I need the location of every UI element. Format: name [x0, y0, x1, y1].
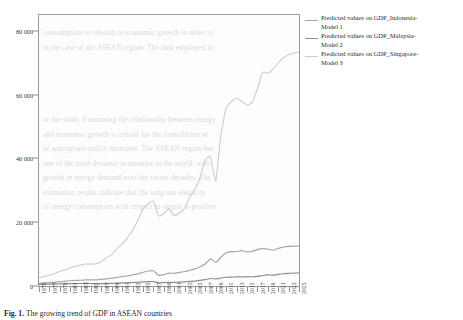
x-axis-tick-mark — [60, 287, 61, 292]
x-axis-tick-mark — [195, 287, 196, 292]
x-axis-tick-mark — [153, 287, 154, 292]
x-axis-tick-mark — [268, 287, 269, 292]
x-axis-tick-label: 1985 — [93, 282, 99, 294]
chart-series-svg — [39, 15, 299, 286]
x-axis-tick-label: 2007 — [208, 282, 214, 294]
x-axis-tick-label: 1983 — [83, 282, 89, 294]
x-axis-tick-mark — [164, 287, 165, 292]
x-axis-tick-label: 2023 — [291, 282, 297, 294]
legend-color-swatch — [305, 38, 318, 39]
x-axis-tick-label: 2009 — [218, 282, 224, 294]
y-axis-tick-label: 80 000 — [16, 27, 33, 34]
x-axis-tick-mark — [216, 287, 217, 292]
x-axis-tick-mark — [133, 287, 134, 292]
x-axis-tick-label: 2025 — [301, 282, 307, 294]
legend-color-swatch — [305, 20, 318, 21]
x-axis-tick-label: 2013 — [239, 282, 245, 294]
x-axis-tick-mark — [112, 287, 113, 292]
x-axis-tick-label: 1997 — [156, 282, 162, 294]
y-axis-tick-mark — [33, 286, 38, 287]
y-axis-tick-mark — [33, 158, 38, 159]
chart-legend: Predicted values on GDP_Indonesia-Model … — [305, 14, 461, 69]
x-axis-tick-label: 2021 — [280, 282, 286, 294]
y-axis-tick-label: 60 000 — [16, 91, 33, 98]
y-axis-tick-mark — [33, 222, 38, 223]
x-axis-tick-label: 1989 — [114, 282, 120, 294]
x-axis-tick-mark — [205, 287, 206, 292]
legend-entry[interactable]: Predicted values on GDP_Malaysia-Model 2 — [305, 32, 461, 49]
x-axis-tick-mark — [185, 287, 186, 292]
legend-label-line2: Model 2 — [321, 41, 461, 50]
x-axis-tick-label: 1975 — [41, 282, 47, 294]
x-axis-tick-label: 1993 — [135, 282, 141, 294]
x-axis-tick-mark — [81, 287, 82, 292]
x-axis-tick-label: 1995 — [145, 282, 151, 294]
legend-entry[interactable]: Predicted values on GDP_Indonesia-Model … — [305, 14, 461, 31]
y-axis-tick-label: 40 000 — [16, 155, 33, 162]
x-axis-tick-mark — [39, 287, 40, 292]
x-axis-tick-mark — [101, 287, 102, 292]
legend-label-line1: Predicted values on GDP_Malaysia- — [321, 32, 416, 39]
x-axis-tick-mark — [257, 287, 258, 292]
x-axis-tick-label: 2011 — [228, 283, 234, 294]
legend-color-swatch — [305, 56, 318, 57]
x-axis-tick-mark — [247, 287, 248, 292]
legend-label-line2: Model 1 — [321, 23, 461, 32]
figure-caption: Fig. 1. The growing trend of GDP in ASEA… — [4, 309, 304, 320]
x-axis-tick-label: 1977 — [52, 282, 58, 294]
x-axis-tick-mark — [237, 287, 238, 292]
legend-entry[interactable]: Predicted values on GDP_Singapore-Model … — [305, 50, 461, 67]
y-axis-tick-mark — [33, 30, 38, 31]
x-axis-tick-label: 2001 — [176, 282, 182, 294]
series-line — [39, 52, 299, 278]
x-axis-tick-label: 1987 — [104, 282, 110, 294]
legend-label-line1: Predicted values on GDP_Singapore- — [321, 50, 418, 57]
x-axis-tick-mark — [299, 287, 300, 292]
x-axis-tick-label: 2019 — [270, 282, 276, 294]
x-axis-tick-mark — [143, 287, 144, 292]
x-axis-tick-mark — [49, 287, 50, 292]
legend-label: Predicted values on GDP_Indonesia-Model … — [321, 14, 461, 31]
y-axis-tick-mark — [33, 94, 38, 95]
chart-plot-area: consumption in relation to economic grow… — [38, 14, 300, 287]
x-axis-tick-label: 1979 — [62, 282, 68, 294]
legend-label-line2: Model 3 — [321, 59, 461, 68]
x-axis-tick-label: 1991 — [124, 282, 130, 294]
x-axis-tick-label: 2015 — [249, 282, 255, 294]
legend-label: Predicted values on GDP_Malaysia-Model 2 — [321, 32, 461, 49]
series-line — [39, 246, 299, 283]
caption-label: Fig. 1. — [4, 309, 24, 318]
y-axis-tick-label: 20 000 — [16, 219, 33, 226]
legend-label-line1: Predicted values on GDP_Indonesia- — [321, 14, 417, 21]
x-axis-tick-label: 2017 — [260, 282, 266, 294]
x-axis-tick-label: 2005 — [197, 282, 203, 294]
caption-text: The growing trend of GDP in ASEAN countr… — [26, 309, 172, 318]
x-axis-tick-mark — [91, 287, 92, 292]
x-axis-tick-label: 1999 — [166, 282, 172, 294]
figure-container: consumption in relation to economic grow… — [0, 0, 463, 320]
x-axis-tick-label: 1981 — [72, 282, 78, 294]
x-axis-tick-mark — [289, 287, 290, 292]
plot-inner: consumption in relation to economic grow… — [39, 15, 299, 286]
x-axis-tick-label: 2003 — [187, 282, 193, 294]
legend-label: Predicted values on GDP_Singapore-Model … — [321, 50, 461, 67]
